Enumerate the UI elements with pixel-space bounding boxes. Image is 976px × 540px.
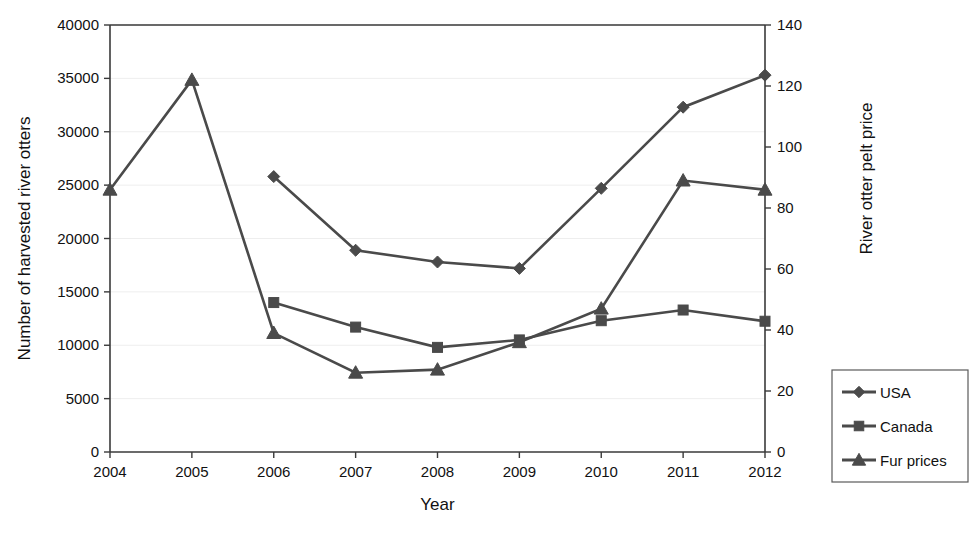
x-tick-label: 2006	[257, 463, 290, 480]
y-left-axis-title: Number of harvested river otters	[15, 117, 34, 361]
marker-square	[678, 305, 688, 315]
right-tick-label: 120	[777, 77, 802, 94]
left-tick-label: 40000	[57, 16, 99, 33]
x-tick-label: 2012	[748, 463, 781, 480]
marker-square	[269, 298, 279, 308]
x-tick-label: 2004	[93, 463, 126, 480]
right-tick-label: 0	[777, 443, 785, 460]
x-tick-label: 2008	[421, 463, 454, 480]
left-tick-label: 15000	[57, 283, 99, 300]
y-right-axis-title: River otter pelt price	[857, 102, 876, 254]
right-tick-label: 100	[777, 138, 802, 155]
marker-square	[854, 421, 864, 431]
right-tick-label: 80	[777, 199, 794, 216]
x-tick-label: 2005	[175, 463, 208, 480]
marker-square	[433, 342, 443, 352]
left-tick-label: 20000	[57, 230, 99, 247]
x-axis-title: Year	[420, 495, 455, 514]
x-tick-label: 2010	[585, 463, 618, 480]
marker-square	[596, 316, 606, 326]
left-tick-label: 35000	[57, 69, 99, 86]
left-tick-label: 10000	[57, 336, 99, 353]
right-tick-label: 20	[777, 382, 794, 399]
x-tick-label: 2007	[339, 463, 372, 480]
chart-background	[0, 0, 976, 540]
legend-item-label: Canada	[880, 418, 933, 435]
x-axis-tick-labels: 200420052006200720082009201020112012	[93, 463, 781, 480]
legend-item-label: USA	[880, 384, 911, 401]
right-tick-label: 140	[777, 16, 802, 33]
x-tick-label: 2011	[667, 463, 699, 480]
x-tick-label: 2009	[503, 463, 536, 480]
right-tick-label: 40	[777, 321, 794, 338]
marker-square	[351, 322, 361, 332]
line-chart: 0500010000150002000025000300003500040000…	[0, 0, 976, 540]
legend-item-label: Fur prices	[880, 452, 947, 469]
left-tick-label: 0	[91, 443, 99, 460]
left-tick-label: 25000	[57, 176, 99, 193]
chart-figure: 0500010000150002000025000300003500040000…	[0, 0, 976, 540]
left-tick-label: 30000	[57, 123, 99, 140]
right-tick-label: 60	[777, 260, 794, 277]
chart-legend[interactable]: USACanadaFur prices	[832, 370, 968, 482]
left-tick-label: 5000	[66, 390, 99, 407]
marker-square	[760, 316, 770, 326]
